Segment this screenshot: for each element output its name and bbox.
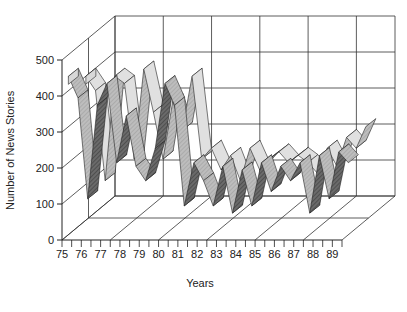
ribbon-chart: 0100200300400500757677787980818283848586… <box>0 0 407 312</box>
x-tick-label: 85 <box>249 248 261 260</box>
x-tick-label: 79 <box>133 248 145 260</box>
x-tick-label: 80 <box>152 248 164 260</box>
x-tick-label: 82 <box>191 248 203 260</box>
x-tick-label: 86 <box>268 248 280 260</box>
chart-canvas: 0100200300400500757677787980818283848586… <box>0 0 407 312</box>
x-tick-label: 75 <box>56 248 68 260</box>
ribbon-segment <box>192 68 212 159</box>
x-tick-label: 89 <box>326 248 338 260</box>
y-tick-label: 300 <box>36 126 54 138</box>
chart-ribbons <box>68 61 375 213</box>
x-tick-label: 83 <box>210 248 222 260</box>
y-tick-label: 0 <box>48 234 54 246</box>
x-axis-label: Years <box>186 277 214 289</box>
x-tick-label: 87 <box>288 248 300 260</box>
y-tick-label: 400 <box>36 90 54 102</box>
x-tick-label: 77 <box>94 248 106 260</box>
x-tick-label: 81 <box>172 248 184 260</box>
x-tick-label: 76 <box>75 248 87 260</box>
y-tick-label: 500 <box>36 54 54 66</box>
x-tick-label: 78 <box>114 248 126 260</box>
y-tick-label: 200 <box>36 162 54 174</box>
x-tick-label: 84 <box>230 248 242 260</box>
y-tick-label: 100 <box>36 198 54 210</box>
x-tick-label: 88 <box>307 248 319 260</box>
y-axis-label: Number of News Stories <box>4 91 16 210</box>
